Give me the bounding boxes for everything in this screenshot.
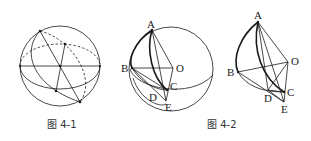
figure-4-2-detail: A B O C D E 图 4-2 bbox=[207, 9, 299, 130]
segment-AO bbox=[258, 22, 288, 62]
figure-4-2-sphere: A B O C D E bbox=[121, 18, 213, 113]
label-D: D bbox=[264, 92, 272, 104]
label-B: B bbox=[121, 62, 128, 74]
caption-4-2: 图 4-2 bbox=[207, 119, 237, 130]
caption-4-1: 图 4-1 bbox=[47, 119, 77, 130]
label-A: A bbox=[254, 9, 262, 21]
segment-BO bbox=[238, 62, 288, 72]
label-C: C bbox=[170, 80, 177, 92]
segment-OD bbox=[268, 62, 288, 90]
great-circle-back bbox=[40, 31, 86, 102]
label-C: C bbox=[287, 86, 294, 98]
label-B: B bbox=[227, 66, 234, 78]
diagram-canvas: 图 4-1 A B O C D E bbox=[0, 0, 311, 141]
label-D: D bbox=[149, 91, 157, 103]
arc-AB bbox=[131, 30, 152, 68]
segment-AD bbox=[258, 22, 268, 90]
arc-AB bbox=[236, 22, 258, 72]
label-O: O bbox=[176, 62, 184, 74]
figure-4-1: 图 4-1 bbox=[19, 26, 101, 130]
label-O: O bbox=[291, 55, 299, 67]
segment-AO bbox=[152, 30, 173, 68]
label-A: A bbox=[147, 18, 155, 30]
axis-line-2 bbox=[56, 44, 65, 91]
arc-AC bbox=[256, 22, 284, 92]
label-E: E bbox=[165, 101, 172, 113]
label-E: E bbox=[281, 103, 288, 115]
